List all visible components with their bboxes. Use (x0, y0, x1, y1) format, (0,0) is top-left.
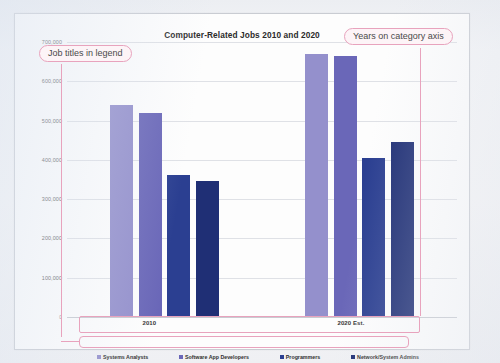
category-callout-leader (420, 48, 421, 316)
y-axis-label-100000: 100,000 (42, 275, 62, 281)
legend-swatch-icon (351, 355, 355, 359)
legend-item-programmers[interactable]: Programmers (280, 354, 320, 360)
y-axis-label-500000: 500,000 (42, 118, 62, 124)
y-axis-label-400000: 400,000 (42, 157, 62, 163)
category-callout: Years on category axis (344, 28, 453, 45)
legend-swatch-icon (179, 355, 183, 359)
legend-label: Systems Analysts (103, 354, 148, 360)
plot-area: 0100,000200,000300,000400,000500,000600,… (67, 42, 457, 317)
legend-item-network-system-admins[interactable]: Network/System Admins (351, 354, 419, 360)
y-axis-label-200000: 200,000 (42, 235, 62, 241)
legend-label: Software App Developers (185, 354, 249, 360)
bar-2010-programmers[interactable] (167, 175, 190, 317)
legend-label: Programmers (286, 354, 320, 360)
chart-card: Computer-Related Jobs 2010 and 2020 0100… (14, 13, 470, 350)
legend-swatch-icon (280, 355, 284, 359)
chart-legend: Systems AnalystsSoftware App DevelopersP… (93, 351, 423, 362)
legend-highlight-box (79, 336, 409, 348)
bar-2020-est--network-system-admins[interactable] (391, 142, 414, 317)
category-axis: 20102020 Est. (67, 317, 455, 332)
bar-2010-software-app-developers[interactable] (139, 113, 162, 317)
chart-plot-container: Computer-Related Jobs 2010 and 2020 0100… (15, 14, 469, 349)
bar-2020-est--systems-analysts[interactable] (305, 54, 328, 317)
y-axis-label-600000: 600,000 (42, 78, 62, 84)
legend-swatch-icon (97, 355, 101, 359)
bar-2010-network-system-admins[interactable] (196, 181, 219, 317)
bar-2020-est--software-app-developers[interactable] (334, 56, 357, 317)
bar-2010-systems-analysts[interactable] (110, 105, 133, 317)
legend-callout: Job titles in legend (39, 45, 132, 62)
legend-item-systems-analysts[interactable]: Systems Analysts (97, 354, 148, 360)
legend-label: Network/System Admins (357, 354, 419, 360)
bar-2020-est--programmers[interactable] (362, 158, 385, 317)
legend-callout-leader (61, 64, 62, 337)
legend-box-connector (61, 341, 80, 342)
category-label-2020-est-: 2020 Est. (338, 320, 365, 326)
legend-item-software-app-developers[interactable]: Software App Developers (179, 354, 249, 360)
y-axis-label-300000: 300,000 (42, 196, 62, 202)
gridline-600000 (67, 81, 457, 82)
category-label-2010: 2010 (143, 320, 157, 326)
